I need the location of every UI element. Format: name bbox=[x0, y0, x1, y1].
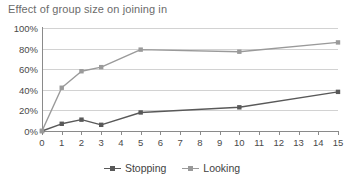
x-tick-mark bbox=[62, 131, 63, 135]
y-tick-label: 0% bbox=[2, 126, 38, 137]
grid-line bbox=[42, 28, 338, 29]
grid-line bbox=[42, 49, 338, 50]
y-tick-label: 40% bbox=[2, 84, 38, 95]
x-tick-label: 1 bbox=[59, 137, 64, 148]
x-tick-label: 11 bbox=[254, 137, 264, 148]
x-tick-mark bbox=[259, 131, 260, 135]
x-tick-mark bbox=[101, 131, 102, 135]
legend-item-stopping[interactable]: Stopping bbox=[104, 162, 166, 174]
chart-container: Effect of group size on joining in 0%20%… bbox=[0, 0, 344, 184]
x-axis-line bbox=[42, 131, 339, 132]
legend-label: Looking bbox=[203, 162, 240, 174]
y-axis-line bbox=[42, 27, 43, 132]
x-tick-label: 5 bbox=[138, 137, 143, 148]
x-tick-label: 13 bbox=[293, 137, 304, 148]
x-tick-label: 9 bbox=[217, 137, 222, 148]
x-tick-label: 15 bbox=[333, 137, 344, 148]
plot-area bbox=[42, 28, 338, 131]
x-tick-mark bbox=[81, 131, 82, 135]
grid-line bbox=[42, 90, 338, 91]
x-tick-mark bbox=[121, 131, 122, 135]
x-tick-label: 0 bbox=[39, 137, 44, 148]
x-tick-mark bbox=[338, 131, 339, 135]
x-tick-mark bbox=[160, 131, 161, 135]
x-tick-mark bbox=[299, 131, 300, 135]
y-tick-label: 80% bbox=[2, 43, 38, 54]
x-tick-label: 10 bbox=[234, 137, 245, 148]
legend-swatch-icon bbox=[182, 164, 199, 173]
x-tick-label: 4 bbox=[118, 137, 123, 148]
x-tick-label: 3 bbox=[99, 137, 104, 148]
x-tick-label: 12 bbox=[274, 137, 285, 148]
grid-line bbox=[42, 110, 338, 111]
x-tick-mark bbox=[239, 131, 240, 135]
x-tick-mark bbox=[180, 131, 181, 135]
x-tick-mark bbox=[42, 131, 43, 135]
x-tick-label: 2 bbox=[79, 137, 84, 148]
x-tick-label: 14 bbox=[313, 137, 324, 148]
y-tick-label: 60% bbox=[2, 64, 38, 75]
legend-item-looking[interactable]: Looking bbox=[182, 162, 240, 174]
legend-label: Stopping bbox=[125, 162, 166, 174]
legend-swatch-icon bbox=[104, 164, 121, 173]
y-axis-tick-labels: 0%20%40%60%80%100% bbox=[0, 0, 38, 184]
x-tick-mark bbox=[279, 131, 280, 135]
x-tick-mark bbox=[220, 131, 221, 135]
y-tick-label: 100% bbox=[2, 23, 38, 34]
x-tick-mark bbox=[141, 131, 142, 135]
x-tick-mark bbox=[200, 131, 201, 135]
grid-line bbox=[42, 69, 338, 70]
y-tick-label: 20% bbox=[2, 105, 38, 116]
x-tick-label: 6 bbox=[158, 137, 163, 148]
chart-legend: StoppingLooking bbox=[0, 162, 344, 174]
x-tick-mark bbox=[318, 131, 319, 135]
x-tick-label: 7 bbox=[177, 137, 182, 148]
x-tick-label: 8 bbox=[197, 137, 202, 148]
